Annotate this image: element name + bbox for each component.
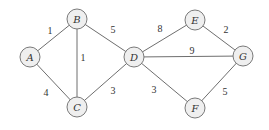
edge-weight-f-g: 5: [223, 86, 228, 97]
node-g: G: [233, 46, 253, 66]
edge-weight-a-b: 1: [48, 25, 53, 36]
edge-weight-d-e: 8: [158, 23, 163, 34]
edge-weight-b-d: 5: [111, 24, 116, 35]
edge-d-e: [134, 20, 195, 57]
node-label: B: [72, 14, 80, 25]
node-label: E: [190, 15, 199, 26]
weighted-graph-diagram: 1415389325 ABCDEFG: [0, 0, 269, 130]
node-label: C: [73, 102, 81, 113]
edge-weight-d-f: 3: [152, 84, 157, 95]
edge-weight-c-d: 3: [111, 85, 116, 96]
node-a: A: [20, 47, 40, 67]
edge-weight-a-c: 4: [44, 87, 49, 98]
node-label: A: [25, 52, 33, 63]
edge-d-g: [134, 56, 243, 57]
edge-weight-e-g: 2: [224, 24, 229, 35]
edge-weight-d-g: 9: [190, 45, 195, 56]
node-e: E: [185, 10, 205, 30]
node-label: F: [191, 103, 200, 114]
node-d: D: [124, 47, 144, 67]
nodes-layer: ABCDEFG: [20, 9, 253, 118]
node-c: C: [67, 97, 87, 117]
edge-weight-b-c: 1: [81, 52, 86, 63]
edge-f-g: [195, 56, 243, 108]
edge-c-d: [77, 57, 134, 107]
node-label: D: [129, 52, 138, 63]
node-f: F: [185, 98, 205, 118]
edge-d-f: [134, 57, 195, 108]
node-b: B: [67, 9, 87, 29]
node-label: G: [239, 51, 247, 62]
